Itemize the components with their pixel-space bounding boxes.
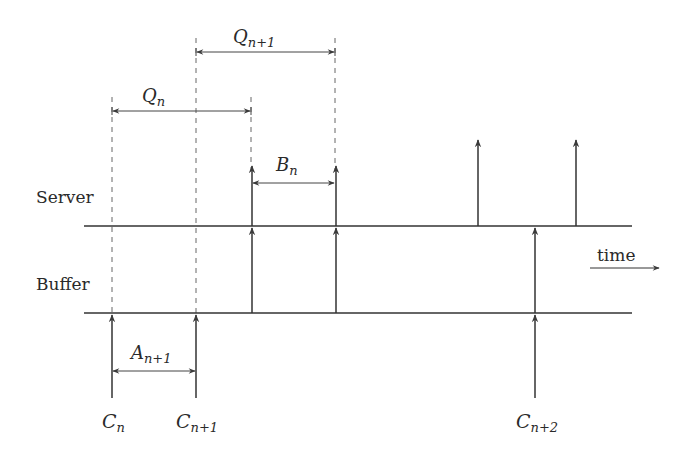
interval-qn: Qn (112, 85, 251, 115)
cn2-label: Cn+2 (516, 410, 558, 435)
interval-an1: An+1 (113, 342, 195, 371)
time-label: time (597, 245, 635, 265)
qn-label: Qn (142, 85, 165, 109)
bn-label: Bn (275, 154, 298, 178)
cn-label: Cn (102, 410, 125, 435)
buffer-label: Buffer (36, 274, 91, 294)
buffer-arrows (252, 228, 535, 313)
cn1-label: Cn+1 (176, 410, 218, 435)
qn1-label: Qn+1 (233, 26, 275, 50)
timing-diagram: Server Buffer time Qn+1 Qn Bn (0, 0, 693, 459)
dashed-guides (112, 38, 335, 313)
server-label: Server (36, 187, 94, 207)
client-arrows (112, 315, 535, 398)
an1-label: An+1 (129, 342, 172, 366)
interval-bn: Bn (253, 154, 334, 183)
interval-qn1: Qn+1 (196, 26, 335, 56)
